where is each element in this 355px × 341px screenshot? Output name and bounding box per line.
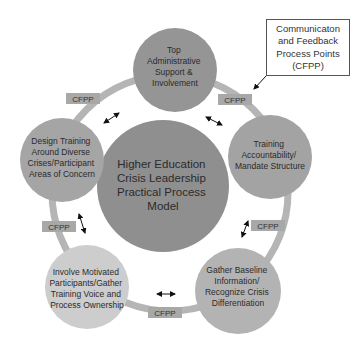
double-arrow-icon (206, 117, 222, 125)
svg-text:CFPP: CFPP (154, 309, 175, 318)
cfpp-badge-left: CFPP (42, 221, 76, 232)
callout-line: Communicaton (276, 23, 340, 36)
double-arrow-icon (242, 221, 248, 237)
svg-text:CFPP: CFPP (224, 96, 245, 105)
svg-text:CFPP: CFPP (257, 222, 278, 231)
svg-text:CFPP: CFPP (72, 95, 93, 104)
cfpp-badge-top-left: CFPP (66, 93, 100, 104)
cfpp-legend-callout: Communicaton and Feedback Process Points… (266, 19, 350, 76)
callout-pointer-arrow-icon (254, 76, 266, 89)
svg-text:CFPP: CFPP (48, 223, 69, 232)
cfpp-badge-bottom: CFPP (148, 307, 182, 318)
node-bottom-left-label: Involve Motivated Participants/Gather Tr… (49, 267, 124, 310)
double-arrow-icon (79, 214, 85, 233)
callout-line: Process Points (276, 48, 339, 61)
node-bottom-right-label: Gather Baseline Information/ Recognize C… (205, 265, 271, 308)
cfpp-badge-top-right: CFPP (218, 94, 252, 105)
cfpp-badge-right: CFPP (251, 220, 285, 231)
callout-line: (CFPP) (292, 60, 324, 73)
callout-line: and Feedback (278, 35, 338, 48)
node-left-label: Design Training Around Diverse Crises/Pa… (28, 136, 97, 179)
double-arrow-icon (104, 113, 119, 123)
